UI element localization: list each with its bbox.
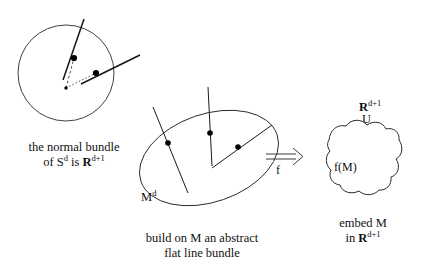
sphere-point-upper [71,55,77,61]
radius-dashed-upper [66,58,74,88]
image-of-m-label: f(M) [334,160,357,174]
fibre-point-left [165,140,171,146]
manifold-label-base: M [141,190,152,204]
arrow-head [293,148,303,165]
left-caption-reals-symbol: R [83,155,92,169]
manifold-label: Md [141,190,156,205]
normal-line-right [81,55,140,84]
right-caption-reals-symbol: R [358,231,367,245]
math-figure-normal-bundle-embedding: the normal bundle of Sd is Rd+1 Md build… [0,0,423,270]
implication-arrow-group [266,148,303,165]
neighbourhood-label: U [362,112,371,127]
left-caption-s-prefix: of S [43,155,64,169]
right-caption-reals-exponent: d+1 [367,229,380,239]
left-caption-is: is [68,155,83,169]
right-caption-line-1: embed M [322,216,404,231]
normal-line-upper [63,19,84,80]
ambient-space-exponent: d+1 [368,98,381,108]
left-caption-reals-exponent: d+1 [92,153,105,163]
center-caption-line-1: build on M an abstract [122,231,282,246]
right-caption-line-2: in Rd+1 [322,231,404,246]
left-panel-group [18,19,140,121]
fibre-point-right [235,144,241,150]
fibre-point-middle [207,130,213,136]
center-caption-line-2: flat line bundle [122,246,282,261]
center-panel-caption: build on M an abstract flat line bundle [122,231,282,261]
map-f-label: f [276,163,280,177]
right-panel-caption: embed M in Rd+1 [322,216,404,246]
right-panel-group [326,120,401,194]
radius-dotted-right [66,73,96,88]
sphere-point-right [93,70,99,76]
right-caption-in: in [345,231,358,245]
left-panel-caption: the normal bundle of Sd is Rd+1 [16,140,132,170]
sphere-center-dot [64,86,67,89]
left-caption-line-1: the normal bundle [16,140,132,155]
left-caption-line-2: of Sd is Rd+1 [16,155,132,170]
manifold-label-exponent: d [152,188,156,198]
embedded-blob-outline [326,120,401,194]
fibre-line-left [153,107,188,193]
fibre-line-middle [208,87,212,166]
fibre-line-right [212,125,272,168]
